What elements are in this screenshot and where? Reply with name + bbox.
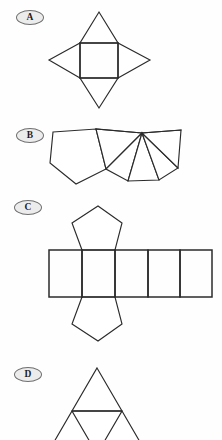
rectangle-4 bbox=[148, 250, 180, 297]
triangle-top bbox=[80, 12, 118, 43]
option-c[interactable]: C bbox=[0, 196, 222, 356]
rectangle-3 bbox=[115, 250, 148, 297]
pentagon-top bbox=[72, 206, 122, 250]
option-d[interactable]: D bbox=[0, 360, 222, 440]
square-pyramid-net-figure bbox=[0, 0, 222, 110]
answer-options-page: A B C bbox=[0, 0, 222, 440]
pentagon-bottom bbox=[72, 297, 122, 341]
triangle-left bbox=[49, 43, 80, 78]
option-a[interactable]: A bbox=[0, 0, 222, 110]
square-base bbox=[80, 43, 118, 78]
rectangle-1 bbox=[49, 250, 82, 297]
triangle-bottom bbox=[80, 78, 118, 108]
rectangle-2 bbox=[82, 250, 115, 297]
option-b[interactable]: B bbox=[0, 110, 222, 205]
triangle-right bbox=[118, 43, 150, 78]
rectangle-5 bbox=[180, 250, 212, 297]
pentagonal-pyramid-net-figure bbox=[0, 110, 222, 205]
pentagonal-prism-net-figure bbox=[0, 196, 222, 356]
tetrahedron-net-figure bbox=[0, 360, 222, 440]
